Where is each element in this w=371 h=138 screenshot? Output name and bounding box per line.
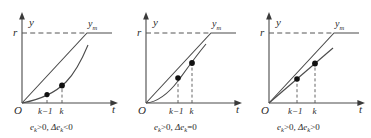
panel-2-plot: y t r O ym k−1 k ek>0, Δek=0 [124,0,248,138]
sample-marker-k-minus-1 [175,75,181,81]
t-axis-label: t [236,103,240,115]
panel-1-caption: ek>0, Δek<0 [30,122,73,133]
sample-marker-k-minus-1 [44,92,49,97]
tick-label-k-minus-1: k−1 [38,106,53,116]
y-axis-label: y [152,16,158,28]
t-axis-label: t [359,103,363,115]
y-axis-label: y [28,16,34,28]
sample-marker-k-minus-1 [294,76,300,82]
panel-3: y t r O ym k−1 k ek>0, Δek>0 [247,0,371,138]
figure-three-panel-response-plots: y t r O ym k−1 k ek>0, Δek<0 [0,0,371,138]
model-reference-ramp-curve [22,33,112,103]
plant-output-curve [269,48,333,103]
tick-label-k-minus-1: k−1 [288,106,303,116]
sample-marker-k [312,61,318,67]
panel-3-caption: ek>0, Δek>0 [277,122,320,133]
reference-label: r [137,26,142,38]
plant-output-curve [22,45,88,103]
origin-label: O [14,104,22,116]
y-axis-label: y [275,16,281,28]
y-axis-arrow [266,12,272,20]
panel-1-plot: y t r O ym k−1 k ek>0, Δek<0 [0,0,124,138]
model-reference-ramp-curve [146,33,236,103]
sample-marker-k [189,60,195,66]
ym-label: ym [87,18,97,31]
tick-label-k-minus-1: k−1 [169,106,184,116]
tick-label-k: k [60,106,65,116]
y-axis-arrow [19,12,25,20]
t-axis-label: t [112,103,116,115]
ym-label: ym [334,18,344,31]
tick-label-k: k [189,106,194,116]
reference-label: r [260,26,265,38]
panel-2: y t r O ym k−1 k ek>0, Δek=0 [124,0,248,138]
model-reference-ramp-curve [269,33,359,103]
origin-label: O [261,104,269,116]
origin-label: O [138,104,146,116]
y-axis-arrow [143,12,149,20]
panel-2-caption: ek>0, Δek=0 [154,122,197,133]
panel-3-plot: y t r O ym k−1 k ek>0, Δek>0 [247,0,371,138]
panel-1: y t r O ym k−1 k ek>0, Δek<0 [0,0,124,138]
reference-label: r [13,26,18,38]
ym-label: ym [211,18,221,31]
tick-label-k: k [313,106,318,116]
plant-output-curve [146,44,206,103]
sample-marker-k [59,83,65,89]
